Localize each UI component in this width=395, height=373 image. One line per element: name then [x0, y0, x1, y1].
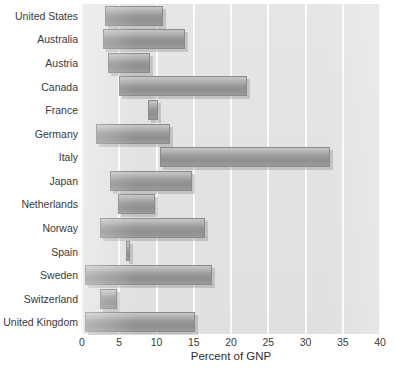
bar-highlight — [120, 77, 245, 85]
bar-highlight — [161, 148, 329, 156]
category-label: Austria — [0, 57, 78, 69]
bar-row — [82, 216, 380, 238]
bar-united-states — [105, 6, 163, 26]
bar-canada — [119, 76, 246, 96]
x-tick-label: 10 — [151, 336, 163, 348]
bar-row — [82, 122, 380, 144]
bar-united-kingdom — [85, 312, 195, 332]
bar-row — [82, 193, 380, 215]
bar-germany — [96, 124, 170, 144]
bar-highlight — [149, 101, 157, 109]
x-tick-label: 15 — [188, 336, 200, 348]
category-label: Germany — [0, 128, 78, 140]
bar-row — [82, 4, 380, 26]
x-tick-label: 25 — [262, 336, 274, 348]
category-label: Netherlands — [0, 198, 78, 210]
category-label: United States — [0, 10, 78, 22]
category-label: Spain — [0, 246, 78, 258]
category-label: Japan — [0, 175, 78, 187]
bar-row — [82, 169, 380, 191]
bar-switzerland — [100, 289, 117, 309]
x-tick-label: 20 — [225, 336, 237, 348]
bar-row — [82, 263, 380, 285]
category-label: Norway — [0, 222, 78, 234]
bar-highlight — [86, 266, 211, 274]
x-axis: 0510152025303540 — [82, 334, 380, 348]
category-axis: United StatesAustraliaAustriaCanadaFranc… — [0, 4, 78, 334]
bar-row — [82, 145, 380, 167]
bar-highlight — [101, 219, 204, 227]
bar-spain — [126, 241, 130, 261]
x-tick-label: 40 — [374, 336, 386, 348]
bar-highlight — [109, 54, 149, 62]
category-label: United Kingdom — [0, 316, 78, 328]
bar-row — [82, 287, 380, 309]
bar-netherlands — [118, 194, 155, 214]
x-tick-label: 5 — [116, 336, 122, 348]
bar-austria — [108, 53, 150, 73]
x-tick-label: 30 — [300, 336, 312, 348]
x-tick-label: 35 — [337, 336, 349, 348]
bar-italy — [160, 147, 330, 167]
bar-sweden — [85, 265, 212, 285]
bar-highlight — [101, 290, 116, 298]
bar-highlight — [127, 242, 129, 250]
bar-row — [82, 240, 380, 262]
bar-australia — [103, 29, 185, 49]
bar-highlight — [111, 172, 191, 180]
bar-row — [82, 28, 380, 50]
bar-row — [82, 75, 380, 97]
bar-highlight — [86, 313, 194, 321]
bar-japan — [110, 171, 192, 191]
bar-highlight — [97, 125, 169, 133]
bar-highlight — [104, 30, 184, 38]
category-label: Switzerland — [0, 293, 78, 305]
bar-highlight — [106, 7, 162, 15]
bar-row — [82, 51, 380, 73]
bar-row — [82, 98, 380, 120]
category-label: Canada — [0, 81, 78, 93]
category-label: France — [0, 104, 78, 116]
category-label: Sweden — [0, 269, 78, 281]
x-tick-label: 0 — [79, 336, 85, 348]
bar-row — [82, 310, 380, 332]
category-label: Australia — [0, 33, 78, 45]
category-label: Italy — [0, 151, 78, 163]
bar-highlight — [119, 195, 154, 203]
plot-area — [82, 4, 380, 334]
bar-norway — [100, 218, 205, 238]
chart-root: United StatesAustraliaAustriaCanadaFranc… — [0, 0, 395, 373]
bar-france — [148, 100, 158, 120]
x-axis-title: Percent of GNP — [82, 350, 380, 362]
